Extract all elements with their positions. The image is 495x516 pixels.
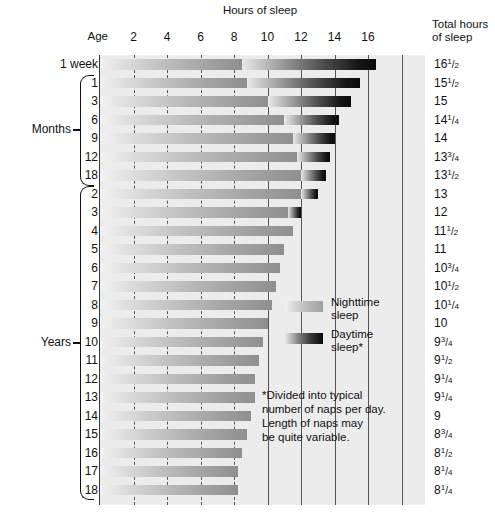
total-hours-value: 111/2 <box>434 224 492 238</box>
bar-daytime-sleep <box>288 207 301 218</box>
bar-nighttime-sleep <box>100 392 255 403</box>
total-hours-value: 81/2 <box>434 446 492 460</box>
footnote-text: *Divided into typical number of naps per… <box>262 388 412 444</box>
bar-row <box>100 481 425 500</box>
brace-nub <box>73 342 80 344</box>
bar-nighttime-sleep <box>100 115 284 126</box>
bar-daytime-sleep <box>301 189 318 200</box>
legend-label-nighttime: Nighttime sleep <box>331 296 380 322</box>
total-hours-value: 13 <box>434 187 492 201</box>
bar-nighttime-sleep <box>100 281 276 292</box>
bar-nighttime-sleep <box>100 78 247 89</box>
total-hours-value: 91/4 <box>434 390 492 404</box>
brace-months <box>80 75 94 186</box>
bar-nighttime-sleep <box>100 226 293 237</box>
daytime-swatch-icon <box>285 333 323 344</box>
brace-years <box>80 186 94 501</box>
total-hours-value: 103/4 <box>434 261 492 275</box>
bar-nighttime-sleep <box>100 170 301 181</box>
bar-row <box>100 444 425 463</box>
bar-nighttime-sleep <box>100 133 293 144</box>
bar-nighttime-sleep <box>100 263 280 274</box>
nighttime-swatch-icon <box>285 301 323 312</box>
bar-row <box>100 277 425 296</box>
bar-row <box>100 259 425 278</box>
total-hours-value: 81/4 <box>434 464 492 478</box>
total-hours-value: 12 <box>434 205 492 219</box>
bar-nighttime-sleep <box>100 355 259 366</box>
bar-row <box>100 370 425 389</box>
group-label-years: Years <box>5 335 71 349</box>
legend-label-daytime: Daytime sleep* <box>331 328 373 354</box>
bar-nighttime-sleep <box>100 337 263 348</box>
x-tick-4: 4 <box>154 30 180 44</box>
total-hours-value: 15 <box>434 94 492 108</box>
x-tick-12: 12 <box>288 30 314 44</box>
total-hours-value: 151/2 <box>434 76 492 90</box>
total-hours-value: 133/4 <box>434 150 492 164</box>
bar-row <box>100 185 425 204</box>
total-hours-value: 141/4 <box>434 113 492 127</box>
total-hours-value: 83/4 <box>434 427 492 441</box>
bar-daytime-sleep <box>297 152 331 163</box>
bar-daytime-sleep <box>242 59 376 70</box>
x-tick-2: 2 <box>121 30 147 44</box>
bar-row <box>100 55 425 74</box>
bar-nighttime-sleep <box>100 466 238 477</box>
age-column-header: Age <box>60 30 108 42</box>
total-hours-value: 9 <box>434 409 492 423</box>
bar-row <box>100 203 425 222</box>
bar-nighttime-sleep <box>100 152 297 163</box>
bar-nighttime-sleep <box>100 411 251 422</box>
bar-row <box>100 111 425 130</box>
x-tick-6: 6 <box>188 30 214 44</box>
total-hours-value: 10 <box>434 316 492 330</box>
total-hours-value: 93/4 <box>434 335 492 349</box>
group-label-months: Months <box>5 122 71 136</box>
x-tick-16: 16 <box>355 30 381 44</box>
bar-nighttime-sleep <box>100 96 268 107</box>
x-tick-8: 8 <box>221 30 247 44</box>
x-tick-14: 14 <box>322 30 348 44</box>
bar-nighttime-sleep <box>100 189 301 200</box>
bar-row <box>100 166 425 185</box>
total-hours-value: 91/2 <box>434 353 492 367</box>
bar-nighttime-sleep <box>100 374 255 385</box>
total-hours-column-header: Total hours of sleep <box>432 18 495 44</box>
bar-nighttime-sleep <box>100 429 247 440</box>
bar-nighttime-sleep <box>100 300 272 311</box>
bar-daytime-sleep <box>247 78 360 89</box>
legend: Nighttime sleep Daytime sleep* <box>285 300 395 364</box>
total-hours-value: 131/2 <box>434 168 492 182</box>
bar-row <box>100 92 425 111</box>
bar-daytime-sleep <box>268 96 352 107</box>
bar-row <box>100 462 425 481</box>
bar-daytime-sleep <box>301 170 326 181</box>
bar-row <box>100 148 425 167</box>
bar-nighttime-sleep <box>100 59 242 70</box>
chart-title-hours-of-sleep: Hours of sleep <box>180 4 340 16</box>
legend-item-daytime: Daytime sleep* <box>285 332 395 364</box>
total-hours-value: 14 <box>434 131 492 145</box>
total-hours-value: 81/4 <box>434 483 492 497</box>
total-hours-value: 161/2 <box>434 57 492 71</box>
bar-daytime-sleep <box>293 133 335 144</box>
bar-nighttime-sleep <box>100 485 238 496</box>
bar-nighttime-sleep <box>100 244 284 255</box>
bar-row <box>100 129 425 148</box>
bar-nighttime-sleep <box>100 448 242 459</box>
bar-nighttime-sleep <box>100 207 288 218</box>
total-hours-value: 101/4 <box>434 298 492 312</box>
bar-row <box>100 222 425 241</box>
total-hours-value: 91/4 <box>434 372 492 386</box>
bar-row <box>100 74 425 93</box>
bar-daytime-sleep <box>284 115 338 126</box>
brace-nub <box>73 129 80 131</box>
total-hours-value: 11 <box>434 242 492 256</box>
x-tick-10: 10 <box>255 30 281 44</box>
bar-nighttime-sleep <box>100 318 268 329</box>
total-hours-value: 101/2 <box>434 279 492 293</box>
age-label: 1 week <box>40 57 98 71</box>
bar-row <box>100 240 425 259</box>
sleep-chart: Hours of sleep Age Total hours of sleep … <box>0 0 495 516</box>
